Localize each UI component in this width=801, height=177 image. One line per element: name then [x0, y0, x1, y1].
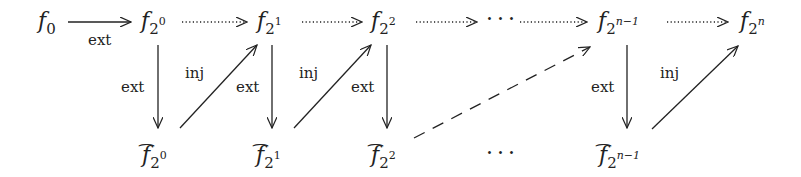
node-base: f — [371, 8, 379, 33]
node-sup: 0 — [159, 15, 166, 28]
label-inj-1: inj — [185, 64, 204, 82]
node-sub: 2 — [379, 20, 389, 38]
label-inj-2: inj — [299, 64, 318, 82]
node-f2-0: f20 — [141, 10, 166, 36]
ellipsis-bottom: ··· — [486, 140, 519, 165]
node-sup: 2 — [389, 15, 396, 28]
label-ext-top: ext — [88, 31, 111, 49]
node-sub: 2 — [265, 20, 275, 38]
node-sup: n — [758, 15, 765, 28]
node-sub: 2 — [606, 20, 616, 38]
node-base: f — [141, 8, 149, 33]
node-base: f — [598, 8, 606, 33]
node-sub: 2 — [264, 154, 274, 172]
node-f2-2: f22 — [371, 10, 396, 36]
hat-accent: ⌢ — [137, 132, 156, 154]
node-sub: 2 — [150, 154, 160, 172]
node-sub: 2 — [379, 154, 389, 172]
node-sup: 1 — [275, 15, 282, 28]
node-hat-f2-n-1: ⌢f2n−1 — [599, 144, 640, 170]
node-base: f — [38, 8, 46, 33]
node-base: f — [257, 8, 265, 33]
node-sup: 0 — [160, 149, 167, 162]
node-f2-1: f21 — [257, 10, 282, 36]
dashed-arrow-hatf22-to-f2n1 — [414, 47, 590, 138]
node-f2-n: f2n — [740, 10, 765, 36]
node-sup: 1 — [274, 149, 281, 162]
node-sup: n−1 — [617, 149, 640, 162]
label-ext-3: ext — [351, 78, 374, 96]
node-f2-n-1: f2n−1 — [598, 10, 639, 36]
label-ext-4: ext — [591, 78, 614, 96]
arrow-hatf2n1-to-f2n — [652, 46, 738, 129]
node-f0: f0 — [38, 10, 56, 34]
node-hat-f2-2: ⌢f22 — [371, 144, 396, 170]
hat-accent: ⌢ — [251, 132, 270, 154]
hat-accent: ⌢ — [366, 132, 385, 154]
node-sub: 2 — [748, 20, 758, 38]
ellipsis-top: ··· — [486, 6, 519, 31]
node-sub: 2 — [607, 154, 617, 172]
node-sup: n−1 — [616, 15, 639, 28]
node-sub: 2 — [149, 20, 159, 38]
label-inj-3: inj — [660, 64, 679, 82]
label-ext-1: ext — [121, 78, 144, 96]
node-sup: 2 — [389, 149, 396, 162]
hat-accent: ⌢ — [594, 132, 613, 154]
node-sub: 0 — [46, 20, 56, 38]
node-hat-f2-1: ⌢f21 — [256, 144, 281, 170]
node-hat-f2-0: ⌢f20 — [142, 144, 167, 170]
label-ext-2: ext — [236, 78, 259, 96]
node-base: f — [740, 8, 748, 33]
